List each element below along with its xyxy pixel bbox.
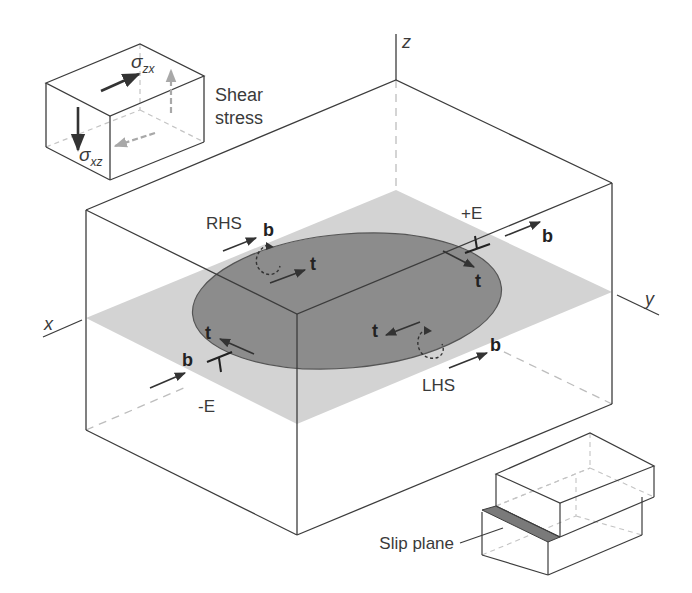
rhs-label: RHS [206,214,242,233]
tangent-plus-e: t [475,271,481,291]
x-axis-label: x [43,314,54,334]
sigma-zx-arrow [101,74,139,91]
minus-e-label: -E [198,397,215,416]
burgers-arrow-plus-e [505,222,540,236]
burgers-vector-rhs: b [263,220,274,240]
slip-plane-inset: Slip plane [379,433,654,575]
lower-block [482,468,642,575]
y-axis-label: y [643,289,655,309]
stress-cube-edges [46,44,204,180]
tangent-rhs: t [310,254,316,274]
dislocation-loop-diagram: z x y RHS b t +E t b t b -E t [0,0,692,593]
burgers-vector-plus-e: b [542,226,553,246]
tangent-minus-e: t [205,323,211,343]
burgers-arrow-minus-e [150,373,185,388]
lhs-label: LHS [422,376,455,395]
sigma-zx-label: σzx [131,51,155,76]
stress-arrow-back-horizontal [115,133,155,146]
crystal-block: z x y [43,32,659,535]
shear-stress-inset: σzx σxz Shear stress [46,44,263,180]
shear-stress-label-line2: stress [215,108,263,128]
burgers-arrow-rhs [223,238,256,251]
tangent-lhs: t [372,321,378,341]
slip-plane-label: Slip plane [379,534,454,553]
slip-strip [482,506,560,542]
burgers-vector-minus-e: b [182,350,193,370]
shear-stress-label-line1: Shear [215,85,263,105]
z-axis-label: z [401,32,411,52]
burgers-vector-lhs: b [490,335,501,355]
plus-e-label: +E [461,204,482,223]
